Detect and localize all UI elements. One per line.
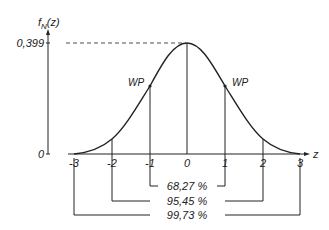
x-tick: -2 xyxy=(107,157,117,169)
x-axis-label: z xyxy=(312,148,319,160)
x-tick: -3 xyxy=(69,157,80,169)
x-tick: 1 xyxy=(222,157,228,169)
x-axis-arrow-icon xyxy=(304,152,310,156)
interval-99-label: 99,73 % xyxy=(167,209,208,221)
x-tick: 0 xyxy=(184,157,191,169)
y-tick-zero: 0 xyxy=(38,148,45,160)
inflection-point-left xyxy=(148,84,151,87)
x-tick: 2 xyxy=(259,157,266,169)
y-axis-label: fN(z) xyxy=(38,16,60,31)
y-tick-peak: 0,399 xyxy=(16,37,44,49)
inflection-point-right xyxy=(223,84,226,87)
wp-label-right: WP xyxy=(232,77,248,88)
x-tick: 3 xyxy=(297,157,304,169)
normal-distribution-diagram: fN(z) 0,399 0 z WP WP -3 -2 -1 0 1 2 3 6… xyxy=(0,0,329,230)
interval-95-label: 95,45 % xyxy=(167,195,208,207)
interval-68-label: 68,27 % xyxy=(167,180,208,192)
wp-label-left: WP xyxy=(128,77,144,88)
x-tick: -1 xyxy=(145,157,155,169)
